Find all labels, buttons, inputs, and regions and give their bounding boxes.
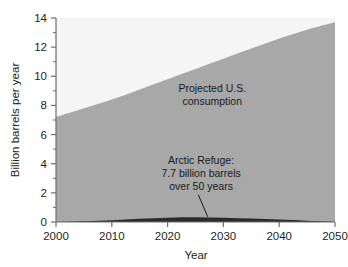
x-tick-label: 2000 [43,230,69,242]
projected-consumption-line: consumption [182,95,242,107]
x-tick-label: 2030 [211,230,237,242]
x-tick-label: 2010 [99,230,125,242]
y-tick-label: 0 [41,216,47,228]
x-tick-label: 2040 [266,230,292,242]
svg-text:Billion barrels per year: Billion barrels per year [9,63,21,178]
x-tick-label: 2020 [155,230,181,242]
arctic-refuge-line: Arctic Refuge: [168,154,234,166]
y-tick-label: 6 [41,129,47,141]
y-axis-title: Billion barrels per year [9,63,21,178]
arctic-refuge-line: 7.7 billion barrels [161,167,240,179]
y-tick-label: 10 [34,70,47,82]
y-axis: 02468101214 [34,12,56,228]
area-chart: 02468101214 200020102020203020402050 Bil… [0,0,348,267]
x-tick-label: 2050 [322,230,348,242]
arctic-refuge-line: over 50 years [169,180,233,192]
x-axis-title: Year [184,249,207,261]
x-axis: 200020102020203020402050 [43,222,348,242]
y-tick-label: 8 [41,99,47,111]
projected-consumption-line: Projected U.S. [178,82,246,94]
y-tick-label: 14 [34,12,47,24]
annotation-projected-consumption: Projected U.S.consumption [178,82,246,107]
annotation-arctic-refuge: Arctic Refuge:7.7 billion barrelsover 50… [161,154,240,192]
chart-figure: 02468101214 200020102020203020402050 Bil… [0,0,348,267]
y-tick-label: 4 [41,158,48,170]
y-tick-label: 2 [41,187,47,199]
svg-text:Year: Year [184,249,207,261]
y-tick-label: 12 [34,41,47,53]
